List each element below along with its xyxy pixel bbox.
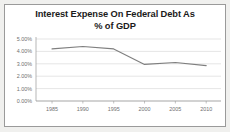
data-series-line: [52, 46, 206, 65]
chart-card: Interest Expense On Federal Debt As % of…: [4, 4, 226, 127]
x-axis-tick-marks: [52, 101, 206, 104]
x-axis-tick-labels: 198519901995200020052010: [46, 106, 212, 112]
x-axis-tick-label: 1995: [108, 106, 120, 112]
x-axis-tick-label: 2000: [139, 106, 151, 112]
y-axis-tick-label: 4.00%: [17, 48, 32, 54]
chart-title-line-1: Interest Expense On Federal Debt As: [5, 8, 225, 20]
plot-area: 0.00%1.00%2.00%3.00%4.00%5.00% 198519901…: [5, 33, 225, 127]
chart-title-line-2: % of GDP: [5, 20, 225, 32]
y-axis-tick-label: 2.00%: [17, 73, 32, 79]
line-chart-svg: 0.00%1.00%2.00%3.00%4.00%5.00% 198519901…: [5, 33, 225, 127]
y-axis-tick-labels: 0.00%1.00%2.00%3.00%4.00%5.00%: [17, 36, 32, 104]
y-axis-tick-label: 3.00%: [17, 61, 32, 67]
x-axis-tick-label: 1985: [46, 106, 58, 112]
x-axis-tick-label: 2010: [200, 106, 212, 112]
chart-outer-frame: Interest Expense On Federal Debt As % of…: [0, 0, 230, 132]
x-axis-tick-label: 2005: [169, 106, 181, 112]
chart-title: Interest Expense On Federal Debt As % of…: [5, 8, 225, 32]
y-axis-tick-label: 5.00%: [17, 36, 32, 42]
y-axis-tick-label: 0.00%: [17, 98, 32, 104]
y-axis-tick-label: 1.00%: [17, 86, 32, 92]
x-axis-tick-label: 1990: [77, 106, 89, 112]
